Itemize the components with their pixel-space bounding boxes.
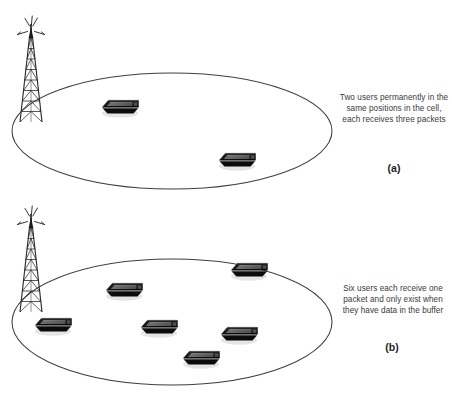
mobile-device bbox=[231, 263, 267, 280]
mobile-device bbox=[183, 351, 219, 368]
base-station-tower-b bbox=[18, 206, 45, 312]
panel-b-group bbox=[12, 206, 332, 385]
mobile-device bbox=[35, 318, 71, 335]
mobile-device bbox=[102, 100, 138, 117]
panel-a-group bbox=[12, 16, 332, 189]
base-station-tower-a bbox=[18, 16, 45, 122]
cell-boundary-a bbox=[12, 73, 332, 189]
mobile-device bbox=[221, 327, 257, 344]
panel-a-label: (a) bbox=[338, 162, 450, 174]
panel-b-caption: Six users each receive one packet and on… bbox=[336, 283, 450, 317]
mobile-device bbox=[219, 153, 255, 170]
mobile-device bbox=[106, 283, 142, 300]
panel-a-caption: Two users permanently in the same positi… bbox=[338, 92, 450, 126]
mobile-device bbox=[141, 320, 177, 337]
figure-canvas: Two users permanently in the same positi… bbox=[0, 0, 452, 401]
panel-b-label: (b) bbox=[336, 341, 448, 353]
